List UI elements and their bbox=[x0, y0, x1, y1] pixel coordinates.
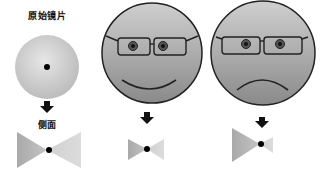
sad-face bbox=[211, 1, 315, 105]
happy-lens-side-profile bbox=[128, 139, 164, 160]
happy-face bbox=[102, 3, 202, 103]
right-triangle bbox=[47, 132, 81, 168]
face-circle bbox=[211, 1, 315, 105]
side-view-label: 侧面 bbox=[38, 118, 57, 131]
down-arrow-icon bbox=[255, 117, 269, 128]
optical-center-dot bbox=[44, 64, 50, 70]
lens-diagram bbox=[0, 0, 325, 179]
down-arrow-icon bbox=[40, 101, 54, 113]
original-lens-label: 原始镜片 bbox=[28, 9, 66, 22]
center-dot bbox=[46, 147, 52, 153]
center-dot bbox=[258, 141, 264, 147]
down-arrow-icon bbox=[140, 112, 154, 124]
center-dot bbox=[144, 146, 150, 152]
left-triangle bbox=[17, 132, 47, 168]
left-triangle bbox=[232, 128, 260, 162]
face-circle bbox=[102, 3, 202, 103]
sad-lens-side-profile bbox=[232, 128, 273, 162]
original-lens-side-profile bbox=[17, 132, 81, 168]
original-lens-front bbox=[15, 35, 79, 99]
